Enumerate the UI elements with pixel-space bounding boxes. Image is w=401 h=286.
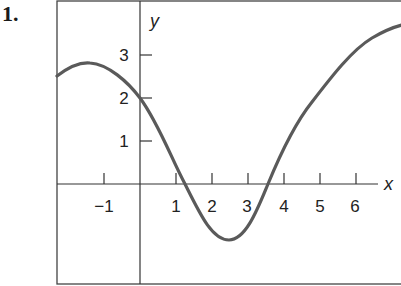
y-tick-label: 2 xyxy=(119,89,128,108)
function-graph: −1 1 2 3 4 5 6 3 2 1 y x xyxy=(0,0,401,286)
x-tick-label: 3 xyxy=(242,197,251,216)
y-tick-label: 1 xyxy=(119,132,128,151)
x-tick-label: 4 xyxy=(279,197,288,216)
x-tick-label: 5 xyxy=(315,197,324,216)
y-axis-label: y xyxy=(148,11,160,31)
y-tick-label: 3 xyxy=(119,46,128,65)
x-tick-label: 6 xyxy=(350,197,359,216)
x-axis-label: x xyxy=(383,174,394,194)
x-tick-label: −1 xyxy=(94,197,113,216)
x-tick-label: 1 xyxy=(171,197,180,216)
x-ticks xyxy=(104,173,356,184)
x-tick-label: 2 xyxy=(207,197,216,216)
